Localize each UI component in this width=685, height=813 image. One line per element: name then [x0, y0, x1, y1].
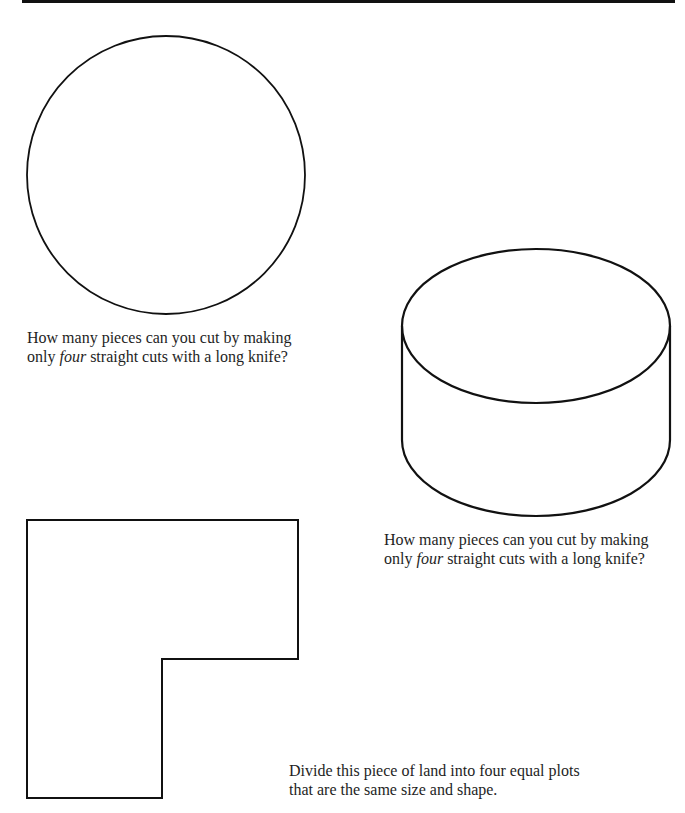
circle-figure: [27, 36, 305, 314]
caption-line: How many pieces can you cut by making: [27, 328, 291, 347]
l-shaped-land-figure: [27, 520, 298, 798]
caption-emphasis: four: [59, 348, 86, 365]
cylinder-top-ellipse: [402, 249, 670, 403]
caption-line: that are the same size and shape.: [289, 780, 580, 799]
circle-caption: How many pieces can you cut by making on…: [27, 328, 291, 366]
caption-line: only four straight cuts with a long knif…: [27, 347, 291, 366]
caption-emphasis: four: [416, 550, 443, 567]
caption-line: How many pieces can you cut by making: [384, 530, 648, 549]
caption-text: straight cuts with a long knife?: [86, 348, 288, 365]
caption-text: only: [27, 348, 59, 365]
caption-line: Divide this piece of land into four equa…: [289, 761, 580, 780]
cylinder-caption: How many pieces can you cut by making on…: [384, 530, 648, 568]
figures-canvas: [0, 0, 685, 813]
caption-text: straight cuts with a long knife?: [443, 550, 645, 567]
caption-line: only four straight cuts with a long knif…: [384, 549, 648, 568]
land-caption: Divide this piece of land into four equa…: [289, 761, 580, 799]
caption-text: only: [384, 550, 416, 567]
cylinder-figure: [402, 249, 670, 516]
cylinder-bottom-arc: [402, 440, 670, 516]
